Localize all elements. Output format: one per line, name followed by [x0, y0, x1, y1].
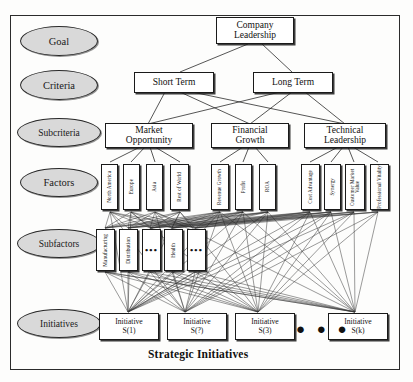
- node-factor-rest-of-world[interactable]: Rest of World: [170, 164, 189, 210]
- node-factor-profit[interactable]: Profit: [235, 164, 252, 210]
- factor-label-synergy: Synergy: [330, 178, 335, 196]
- level-ellipse-subcriteria: Subcriteria: [17, 118, 101, 147]
- node-factor-roa[interactable]: ROA: [259, 164, 276, 210]
- node-factor-north-america[interactable]: North America: [101, 164, 118, 210]
- node-subcriteria-financial-growth[interactable]: Financial Growth: [211, 123, 289, 148]
- factor-label-revenue-growth: Revenue Growth: [217, 169, 222, 205]
- subfactor-label-manufacturing: Manufacturing: [103, 234, 109, 267]
- initiative-1-line-2: S(?): [191, 327, 204, 336]
- subfactor-label-distribution: Distribution: [126, 237, 132, 264]
- node-criteria-short-term[interactable]: Short Term: [134, 72, 214, 93]
- goal-line-2: Leadership: [234, 31, 276, 41]
- node-subfactor-manufacturing[interactable]: Manufacturing: [96, 229, 115, 271]
- level-label-factors: Factors: [44, 177, 75, 188]
- node-subfactor-distribution[interactable]: Distribution: [119, 229, 138, 271]
- subcriteria-2-line-2: Leadership: [324, 136, 366, 146]
- subcriteria-1-line-2: Growth: [235, 136, 264, 146]
- level-ellipse-goal: Goal: [20, 26, 98, 56]
- node-subcriteria-market-opportunity[interactable]: Market Opportunity: [105, 123, 193, 148]
- node-factor-customer-market-value[interactable]: Customer Market Value: [345, 164, 365, 210]
- node-factor-cost-advantage[interactable]: Cost Advantage: [301, 164, 320, 210]
- subcriteria-0-line-2: Opportunity: [126, 136, 172, 146]
- factor-label-europe: Europe: [129, 179, 134, 194]
- initiative-0-line-2: S(1): [122, 327, 135, 336]
- factor-label-asia: Asia: [152, 182, 157, 192]
- node-factor-europe[interactable]: Europe: [123, 164, 140, 210]
- node-factor-professional-vitality[interactable]: Professional Vitality: [370, 164, 389, 210]
- level-label-criteria: Criteria: [43, 80, 75, 91]
- subfactor-ellipsis-2-label: •••: [190, 246, 203, 255]
- criteria-label-long-term: Long Term: [272, 78, 314, 88]
- level-ellipse-criteria: Criteria: [20, 70, 98, 100]
- factor-label-customer-market-value: Customer Market Value: [350, 165, 361, 209]
- level-ellipse-factors: Factors: [20, 168, 98, 197]
- level-ellipse-initiatives: Initiatives: [17, 309, 101, 338]
- factor-label-rest-of-world: Rest of World: [177, 172, 182, 202]
- node-factor-revenue-growth[interactable]: Revenue Growth: [211, 164, 229, 210]
- diagram-caption: Strategic Initiatives: [148, 348, 248, 360]
- criteria-label-short-term: Short Term: [153, 78, 196, 88]
- initiatives-ellipsis: ● ● ●: [296, 322, 351, 337]
- node-initiative-s2[interactable]: Initiative S(?): [167, 313, 227, 340]
- level-label-subcriteria: Subcriteria: [38, 128, 80, 138]
- node-factor-asia[interactable]: Asia: [146, 164, 163, 210]
- level-label-initiatives: Initiatives: [40, 319, 78, 329]
- level-label-subfactors: Subfactors: [39, 239, 80, 249]
- initiative-2-line-2: S(3): [258, 327, 271, 336]
- node-initiative-s1[interactable]: Initiative S(1): [99, 313, 159, 340]
- node-subfactor-health[interactable]: Health: [164, 229, 183, 271]
- node-initiative-s3[interactable]: Initiative S(3): [235, 313, 295, 340]
- factor-label-roa: ROA: [265, 181, 270, 192]
- node-factor-synergy[interactable]: Synergy: [324, 164, 341, 210]
- diagram-canvas: Goal Criteria Subcriteria Factors Subfac…: [0, 0, 413, 382]
- factor-label-profit: Profit: [241, 181, 246, 193]
- level-ellipse-subfactors: Subfactors: [17, 229, 101, 258]
- factor-label-cost-advantage: Cost Advantage: [308, 170, 313, 204]
- factor-label-north-america: North America: [107, 171, 112, 203]
- node-subfactor-ellipsis-1: •••: [142, 229, 161, 271]
- factor-label-professional-vitality: Professional Vitality: [377, 165, 382, 209]
- node-criteria-long-term[interactable]: Long Term: [253, 72, 333, 93]
- node-subcriteria-technical-leadership[interactable]: Technical Leadership: [304, 123, 386, 148]
- node-subfactor-ellipsis-2: •••: [187, 229, 206, 271]
- subfactor-label-health: Health: [171, 243, 177, 258]
- node-goal-company-leadership[interactable]: Company Leadership: [216, 17, 294, 44]
- subfactor-ellipsis-1-label: •••: [145, 246, 158, 255]
- level-label-goal: Goal: [49, 36, 69, 47]
- initiative-3-line-2: S(k): [351, 327, 364, 336]
